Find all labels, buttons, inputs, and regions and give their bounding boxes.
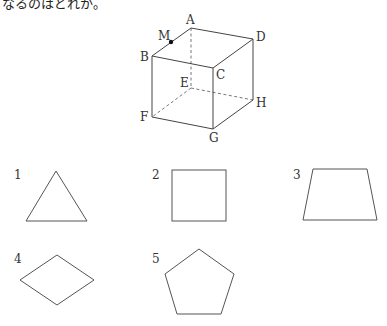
rhombus-shape — [20, 255, 94, 305]
choice-1: 1 — [14, 168, 87, 221]
label-c: C — [216, 68, 225, 82]
choice-5: 5 — [152, 249, 234, 314]
label-h: H — [256, 96, 266, 110]
choice-5-number: 5 — [152, 252, 160, 266]
trapezoid-shape — [303, 169, 377, 220]
choice-2: 2 — [152, 168, 226, 221]
choice-1-number: 1 — [14, 168, 22, 182]
label-g: G — [209, 131, 219, 145]
label-a: A — [185, 13, 195, 27]
choice-4: 4 — [14, 252, 94, 305]
square-shape — [172, 170, 226, 221]
label-d: D — [256, 30, 266, 44]
choice-3-number: 3 — [293, 168, 301, 182]
label-b: B — [140, 50, 149, 64]
edge-ef — [152, 88, 191, 117]
cube-diagram: A B C D E F G H M — [140, 13, 266, 145]
figure-canvas: A B C D E F G H M 1 2 3 4 5 — [0, 0, 387, 326]
choice-2-number: 2 — [152, 168, 160, 182]
choice-4-number: 4 — [14, 252, 22, 266]
triangle-shape — [26, 171, 87, 221]
edge-fg — [152, 117, 213, 129]
label-e: E — [180, 76, 189, 90]
label-f: F — [140, 110, 148, 124]
edge-gh — [213, 100, 253, 129]
label-m: M — [158, 29, 170, 43]
choice-3: 3 — [293, 168, 377, 220]
pentagon-shape — [165, 249, 234, 314]
edge-eh — [191, 88, 253, 100]
